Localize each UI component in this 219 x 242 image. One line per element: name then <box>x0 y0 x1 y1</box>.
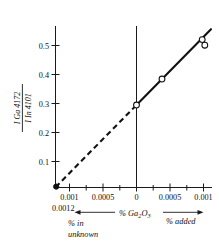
y-tick-label-3: 0.3 <box>39 100 49 109</box>
right-annotation: % added <box>166 217 196 226</box>
y-axis-label-denominator: I In 4101 <box>24 93 33 123</box>
y-axis-label-group: I Ga 4172 I In 4101 <box>13 84 33 132</box>
data-point-mid-addition <box>159 76 165 82</box>
left-annotation-line2: unknown <box>68 230 98 239</box>
y-axis-label-numerator: I Ga 4172 <box>13 92 22 125</box>
x-tick-label-zero: 0 <box>134 193 138 202</box>
left-arrow-head <box>75 210 81 215</box>
x-tick-label-neg-0.001: 0.001 <box>60 193 78 202</box>
x-tick-label-neg-0.0005: 0.0005 <box>92 193 115 202</box>
y-tick-label-5: 0.5 <box>39 42 49 51</box>
chart-figure: 0.5 0.4 0.3 0.2 0.1 0.001 0.0005 0 0.000… <box>0 0 219 242</box>
y-tick-label-1: 0.1 <box>39 158 49 167</box>
x-axis-title-sub-3: 3 <box>146 212 150 219</box>
x-tick-label-pos-0.0005: 0.0005 <box>159 193 182 202</box>
right-arrow-head <box>198 210 204 215</box>
y-tick-label-2: 0.2 <box>39 129 49 138</box>
x-axis-title-main: % Ga2O3 <box>119 209 151 219</box>
x-tick-label-pos-0.001: 0.001 <box>194 193 212 202</box>
data-point-zero-addition <box>134 102 140 108</box>
data-point-x-intercept <box>54 184 59 189</box>
x-axis-title-prefix: % Ga <box>119 209 138 218</box>
data-point-high-addition-b <box>202 42 208 48</box>
left-annotation-line1: % in <box>68 219 84 228</box>
data-point-high-addition-a <box>199 37 205 43</box>
standard-addition-plot: 0.5 0.4 0.3 0.2 0.1 0.001 0.0005 0 0.000… <box>0 0 219 242</box>
y-tick-label-4: 0.4 <box>39 71 49 80</box>
x-intercept-label: 0.0012 <box>52 204 75 213</box>
extrapolation-dashed-line <box>56 105 137 187</box>
